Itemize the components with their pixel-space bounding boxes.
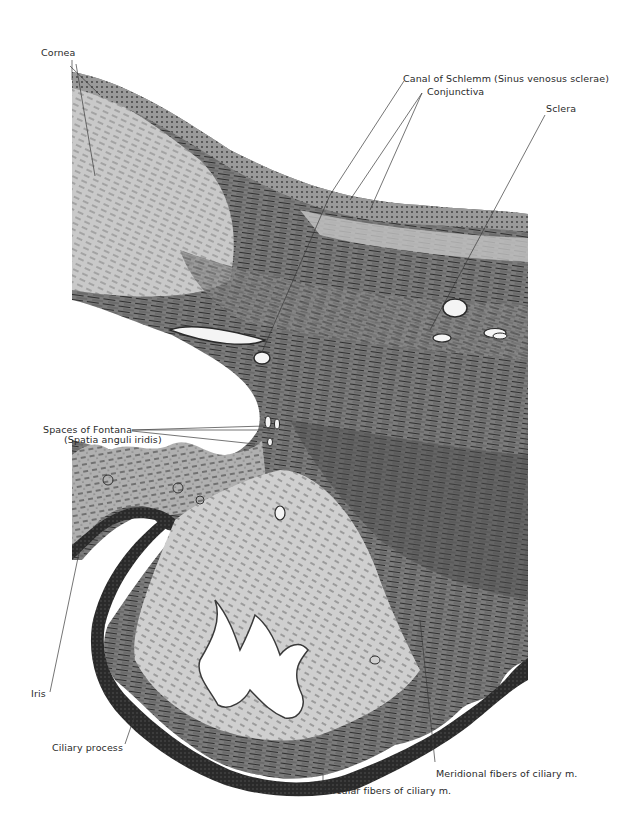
tissue-illustration (0, 0, 623, 830)
vessel (254, 352, 270, 364)
label-sclera: Sclera (546, 103, 576, 114)
histology-figure: Cornea Canal of Schlemm (Sinus venosus s… (0, 0, 623, 830)
fontana-space (265, 416, 271, 428)
label-spatia-anguli-iridis: (Spatia anguli iridis) (64, 434, 162, 445)
label-cornea: Cornea (41, 47, 75, 58)
ciliary-vessel (370, 656, 380, 664)
fontana-space (275, 419, 280, 429)
fontana-space (268, 438, 273, 446)
scleral-vessel (433, 334, 451, 342)
label-meridional-fibers: Meridional fibers of ciliary m. (436, 768, 577, 779)
label-conjunctiva: Conjunctiva (427, 86, 484, 97)
scleral-vessel (443, 299, 467, 317)
label-ciliary-process: Ciliary process (52, 742, 123, 753)
label-canal-of-schlemm: Canal of Schlemm (Sinus venosus sclerae) (403, 73, 609, 84)
label-iris: Iris (31, 688, 46, 699)
label-circular-fibers: Circular fibers of ciliary m. (323, 785, 451, 796)
scleral-vessel (493, 333, 507, 339)
ciliary-vessel (275, 506, 285, 520)
